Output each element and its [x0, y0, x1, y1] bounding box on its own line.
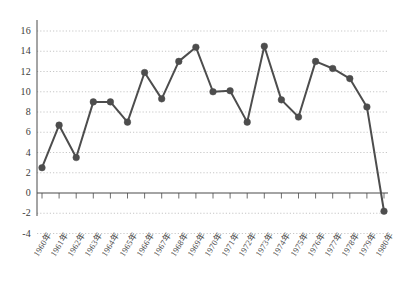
y-axis-tick-label: 0 [11, 188, 31, 198]
y-axis-tick-label: 8 [11, 107, 31, 117]
y-axis-tick-label: 6 [11, 127, 31, 137]
data-point [39, 164, 46, 171]
data-point [158, 96, 165, 103]
y-axis-tick-label: 4 [11, 148, 31, 158]
data-point [107, 99, 114, 106]
data-point [278, 97, 285, 104]
data-point [73, 154, 80, 161]
data-point [244, 119, 251, 126]
y-axis-tick-label: -4 [11, 229, 31, 239]
line-chart: 1614121086420-2-41960年1961年1962年1963年196… [0, 0, 394, 289]
y-axis-tick-label: 12 [11, 67, 31, 77]
x-tick-marks [42, 193, 384, 199]
y-axis-tick-label: 10 [11, 87, 31, 97]
gridlines [37, 31, 388, 234]
data-point [176, 58, 183, 65]
data-point [141, 69, 148, 76]
data-point [295, 114, 302, 121]
data-point [312, 58, 319, 65]
data-point [124, 119, 131, 126]
data-point [347, 75, 354, 82]
data-point [90, 99, 97, 106]
data-point [56, 122, 63, 129]
y-axis-tick-label: 14 [11, 46, 31, 56]
y-axis-tick-label: 16 [11, 26, 31, 36]
data-point [381, 208, 388, 215]
y-axis-tick-label: 2 [11, 168, 31, 178]
data-point [193, 44, 200, 51]
y-axis-tick-label: -2 [11, 208, 31, 218]
data-point [261, 43, 268, 50]
data-point [329, 65, 336, 72]
data-point [210, 88, 217, 95]
data-point [227, 87, 234, 94]
data-markers [39, 43, 388, 215]
data-point [364, 104, 371, 111]
